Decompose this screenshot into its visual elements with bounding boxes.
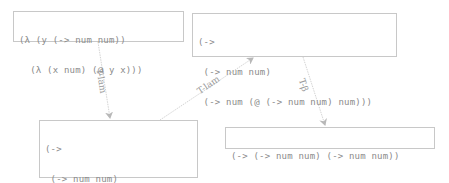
node-line: (λ (x num) (@ y x))) [19, 65, 178, 75]
node-line: (-> num num) [198, 67, 391, 77]
node-term-3: (-> (-> num num) (λ (x num) (@ (-> num n… [39, 120, 198, 178]
node-line: (-> num num) [45, 174, 192, 183]
node-line: (-> (-> num num) (-> num num)) [231, 151, 429, 161]
node-term-4: (-> (-> num num) (-> num num)) [225, 127, 435, 149]
node-term-2: (-> (-> num num) (-> num (@ (-> num num)… [192, 13, 397, 57]
node-line: (-> [45, 144, 192, 154]
node-line: (λ (y (-> num num)) [19, 35, 178, 45]
reduction-diagram: T-lam T-lam T-β (λ (y (-> num num)) (λ (… [0, 0, 449, 183]
node-line: (-> [198, 37, 391, 47]
node-term-1: (λ (y (-> num num)) (λ (x num) (@ y x))) [13, 11, 184, 42]
node-line: (-> num (@ (-> num num) num))) [198, 97, 391, 107]
